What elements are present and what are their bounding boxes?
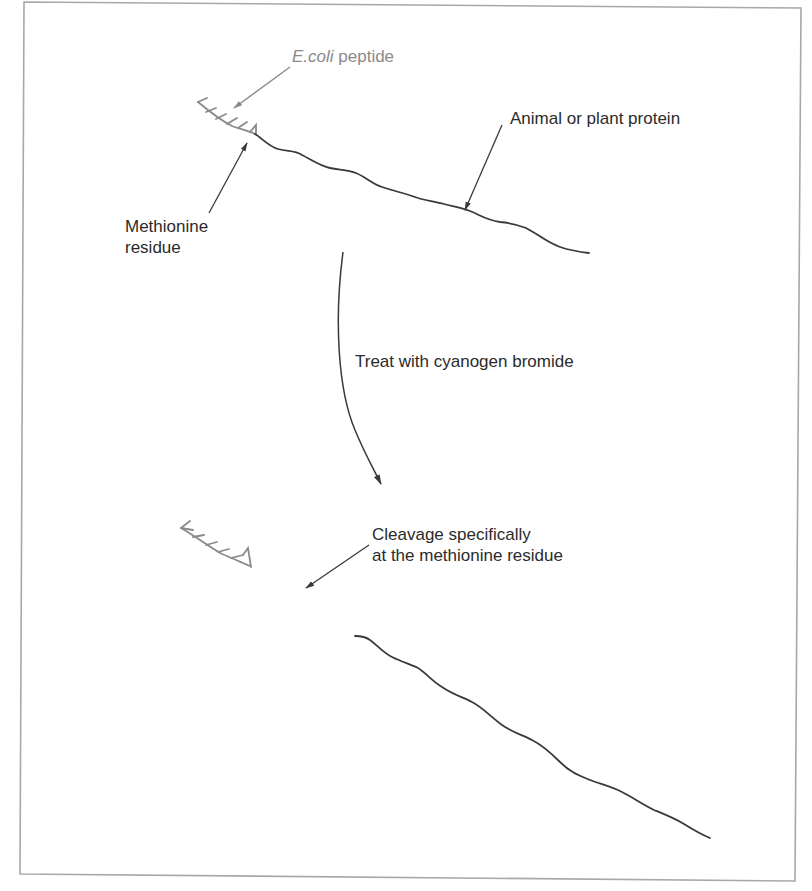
ecoli-peptide-label-italic: E.coli <box>292 47 334 66</box>
cleavage-label-line2: at the methionine residue <box>372 545 563 566</box>
fusion-protein-cleavage-diagram <box>0 0 812 891</box>
ecoli-peptide-pointer-arrow <box>234 67 290 108</box>
animal-plant-protein-label: Animal or plant protein <box>510 108 680 129</box>
cleavage-label: Cleavage specifically at the methionine … <box>372 524 563 566</box>
animal-plant-protein-attached <box>255 134 589 253</box>
treatment-label: Treat with cyanogen bromide <box>355 351 574 372</box>
animal-plant-protein-cleaved <box>355 636 710 838</box>
protein-pointer-arrow <box>465 125 502 210</box>
cleavage-label-line1: Cleavage specifically <box>372 524 563 545</box>
figure-frame <box>20 2 801 881</box>
methionine-residue-label-line2: residue <box>125 237 208 258</box>
ecoli-peptide-cleaved <box>181 521 251 567</box>
cleavage-pointer-arrow <box>306 545 369 588</box>
methionine-residue-label: Methionine residue <box>125 216 208 258</box>
methionine-pointer-arrow <box>209 143 247 213</box>
ecoli-peptide-attached <box>198 98 256 134</box>
ecoli-peptide-label-rest: peptide <box>334 47 395 66</box>
methionine-residue-label-line1: Methionine <box>125 216 208 237</box>
ecoli-peptide-label: E.coli peptide <box>292 46 394 67</box>
